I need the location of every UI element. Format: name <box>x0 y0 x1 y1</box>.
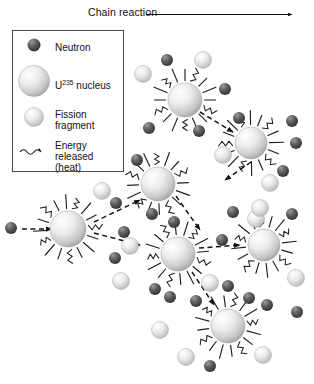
emission-ray <box>224 296 226 307</box>
energy-wave <box>88 224 102 229</box>
emission-ray <box>184 222 188 235</box>
fission-fragment <box>252 200 269 217</box>
fission-fragment <box>215 147 232 164</box>
emission-ray <box>231 345 233 356</box>
emission-ray <box>77 247 82 257</box>
emission-ray <box>128 185 139 186</box>
energy-wave <box>189 229 198 238</box>
neutron <box>216 234 228 246</box>
emission-ray <box>273 261 278 271</box>
fission-fragment <box>178 349 195 366</box>
energy-wave <box>166 201 175 214</box>
energy-wave <box>41 237 51 245</box>
energy-wave <box>160 225 169 237</box>
energy-wave <box>202 307 211 316</box>
emission-ray <box>159 269 166 277</box>
legend-fragment-icon <box>25 108 44 127</box>
energy-wave <box>280 255 291 265</box>
emission-ray <box>54 201 59 211</box>
emission-ray <box>197 251 208 252</box>
neutron <box>118 226 130 238</box>
neutron <box>233 112 245 124</box>
energy-wave <box>67 249 72 263</box>
energy-wave <box>167 273 175 286</box>
neutron <box>143 122 155 134</box>
fission-fragment <box>94 183 111 200</box>
fission-fragment <box>113 273 130 290</box>
energy-wave <box>265 154 276 165</box>
energy-wave <box>126 172 139 180</box>
emission-ray <box>232 247 246 249</box>
emission-ray <box>258 116 262 126</box>
emission-ray <box>154 87 167 92</box>
energy-wave <box>219 141 233 146</box>
emission-ray <box>240 302 247 311</box>
energy-wave <box>148 254 159 259</box>
neutron <box>164 291 176 303</box>
neutron <box>290 137 302 149</box>
energy-wave <box>235 235 246 242</box>
energy-wave <box>190 68 198 81</box>
legend-glyphs <box>19 39 50 155</box>
neutron <box>168 216 180 228</box>
uranium-nuclei <box>50 83 280 343</box>
emission-ray <box>199 78 207 86</box>
emission-ray <box>268 150 278 154</box>
emission-ray <box>159 204 160 215</box>
fission-fragment <box>152 322 169 339</box>
fission-fragment <box>195 52 212 69</box>
neutron <box>277 165 289 177</box>
emission-ray <box>87 236 98 240</box>
emission-ray <box>58 248 62 259</box>
energy-wave <box>279 229 289 237</box>
energy-wave <box>200 336 212 345</box>
emission-ray <box>163 114 171 122</box>
emission-ray <box>172 69 177 82</box>
emission-ray <box>199 114 207 122</box>
uranium-nucleus <box>235 127 267 159</box>
emission-ray <box>256 263 259 274</box>
emission-ray <box>45 244 54 255</box>
fission-fragment <box>135 66 152 83</box>
fission-fragment <box>262 175 279 192</box>
neutron <box>204 360 216 372</box>
emission-ray <box>239 225 250 234</box>
neutron <box>291 306 303 318</box>
emission-ray <box>128 192 141 198</box>
emission-ray <box>176 191 189 196</box>
neutron-path-arrow <box>225 162 251 180</box>
neutron <box>5 222 17 234</box>
emission-ray <box>178 183 189 184</box>
figure-canvas: Chain reaction Neutron U235 nucleus Fiss… <box>0 0 314 384</box>
uranium-nucleus <box>248 229 280 261</box>
uranium-nucleus <box>168 83 202 117</box>
neutron <box>109 252 121 264</box>
energy-wave <box>183 120 188 131</box>
neutron <box>149 283 161 295</box>
chain-reaction-diagram <box>0 0 314 384</box>
energy-wave <box>262 118 273 129</box>
neutron <box>146 208 158 220</box>
emission-ray <box>238 254 248 259</box>
emission-ray <box>172 118 177 131</box>
neutron <box>243 292 255 304</box>
energy-wave <box>72 198 79 208</box>
uranium-nucleus <box>50 211 86 247</box>
emission-ray <box>196 318 210 322</box>
emission-ray <box>172 197 180 205</box>
emission-ray <box>155 235 163 242</box>
neutron <box>219 83 231 95</box>
emission-ray <box>171 162 179 170</box>
emission-ray <box>266 263 268 277</box>
energy-wave <box>204 105 217 113</box>
energy-wave <box>138 199 147 208</box>
legend-neutron-icon <box>28 39 41 52</box>
emission-ray <box>198 329 209 331</box>
emission-ray <box>34 230 48 231</box>
legend-energy-wave-icon <box>20 150 41 155</box>
emission-ray <box>282 241 296 243</box>
emission-ray <box>86 215 96 220</box>
emission-ray <box>244 338 253 345</box>
emission-ray <box>38 219 49 223</box>
energy-wave <box>238 342 247 354</box>
